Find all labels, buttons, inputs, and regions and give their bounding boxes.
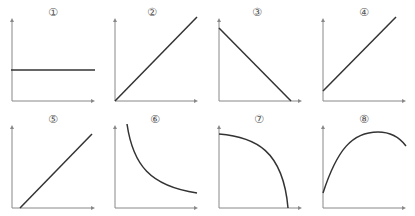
panel-label: ② — [147, 6, 157, 19]
panel-label: ① — [48, 6, 58, 19]
panel-label: ④ — [359, 6, 369, 19]
panel-4: ④ — [323, 6, 404, 101]
graph-curve — [323, 17, 396, 91]
panel-3: ③ — [219, 6, 300, 101]
panel-8: ⑧ — [323, 113, 406, 208]
panel-label: ③ — [252, 6, 262, 19]
panel-5: ⑤ — [12, 113, 93, 208]
graph-grid: ① ② ③ ④ ⑤ ⑥ ⑦ ⑧ — [0, 0, 415, 216]
graph-curve — [219, 134, 288, 208]
panel-7: ⑦ — [219, 113, 300, 208]
graph-curve — [20, 134, 92, 208]
panel-label: ⑧ — [359, 113, 369, 126]
panel-label: ⑦ — [254, 113, 264, 126]
panel-6: ⑥ — [115, 113, 197, 208]
panel-label: ⑥ — [150, 113, 160, 126]
graph-curve — [219, 28, 291, 101]
panel-2: ② — [115, 6, 197, 101]
graph-curve — [127, 124, 197, 193]
graph-curve — [323, 132, 406, 193]
panel-1: ① — [11, 6, 95, 101]
panel-label: ⑤ — [48, 113, 58, 126]
graph-curve — [115, 17, 197, 101]
